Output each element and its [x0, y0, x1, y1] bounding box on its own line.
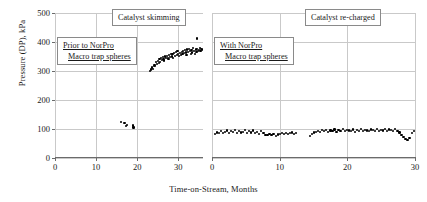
- gridline-horizontal: [212, 100, 415, 101]
- gridline-vertical: [178, 13, 179, 158]
- x-tick-label: 20: [335, 162, 359, 172]
- x-tick-mark: [178, 157, 179, 161]
- gridline-horizontal: [212, 71, 415, 72]
- gridline-vertical: [415, 13, 416, 158]
- gridline-horizontal: [55, 129, 203, 130]
- gridline-vertical: [96, 13, 97, 158]
- y-tick-label: 500: [24, 8, 50, 18]
- annotation-catalyst-recharged: Catalyst re-charged: [305, 9, 381, 26]
- gridline-vertical: [137, 13, 138, 158]
- panel-prior-to-norpro: [55, 13, 203, 158]
- x-tick-mark: [415, 157, 416, 161]
- data-point: [201, 48, 203, 50]
- data-point: [408, 137, 410, 139]
- x-tick-mark: [280, 157, 281, 161]
- gridline-horizontal: [212, 158, 415, 159]
- x-tick-label: 30: [403, 162, 427, 172]
- y-tick-label: 300: [24, 66, 50, 76]
- data-point: [152, 68, 154, 70]
- gridline-vertical: [347, 13, 348, 158]
- data-point: [339, 130, 341, 132]
- y-tick-label: 400: [24, 37, 50, 47]
- x-tick-label: 10: [84, 162, 108, 172]
- gridline-vertical: [55, 13, 56, 158]
- data-point: [228, 132, 230, 134]
- plot-background-a: [55, 13, 203, 158]
- x-tick-mark: [55, 157, 56, 161]
- y-tick-label: 100: [24, 124, 50, 134]
- plot-background-b: [212, 13, 415, 158]
- x-tick-label: 0: [200, 162, 224, 172]
- y-tick-label: 200: [24, 95, 50, 105]
- x-tick-label: 30: [166, 162, 190, 172]
- data-point: [185, 54, 187, 56]
- gridline-vertical: [280, 13, 281, 158]
- x-tick-label: 10: [268, 162, 292, 172]
- x-tick-label: 20: [125, 162, 149, 172]
- data-point: [218, 132, 220, 134]
- x-tick-label: 0: [43, 162, 67, 172]
- x-tick-mark: [137, 157, 138, 161]
- pressure-vs-time-chart: Pressure (DP), kPa 0100200300400500 Cata…: [0, 0, 427, 202]
- x-tick-mark: [347, 157, 348, 161]
- gridline-horizontal: [55, 100, 203, 101]
- gridline-vertical: [212, 13, 213, 158]
- gridline-horizontal: [55, 71, 203, 72]
- x-tick-mark: [212, 157, 213, 161]
- x-axis-label: Time-on-Stream, Months: [0, 184, 427, 194]
- data-point: [406, 139, 408, 141]
- data-point: [132, 126, 134, 128]
- data-point: [358, 130, 360, 132]
- data-point: [123, 122, 125, 124]
- annotation-with-norpro: With NorPro Macro trap spheres: [214, 37, 294, 65]
- annotation-prior-to-norpro: Prior to NorPro Macro trap spheres: [57, 37, 137, 65]
- data-point: [413, 130, 415, 132]
- panel-with-norpro: [212, 13, 415, 158]
- gridline-horizontal: [55, 158, 203, 159]
- x-tick-mark: [96, 157, 97, 161]
- annotation-catalyst-skimming: Catalyst skimming: [112, 9, 186, 26]
